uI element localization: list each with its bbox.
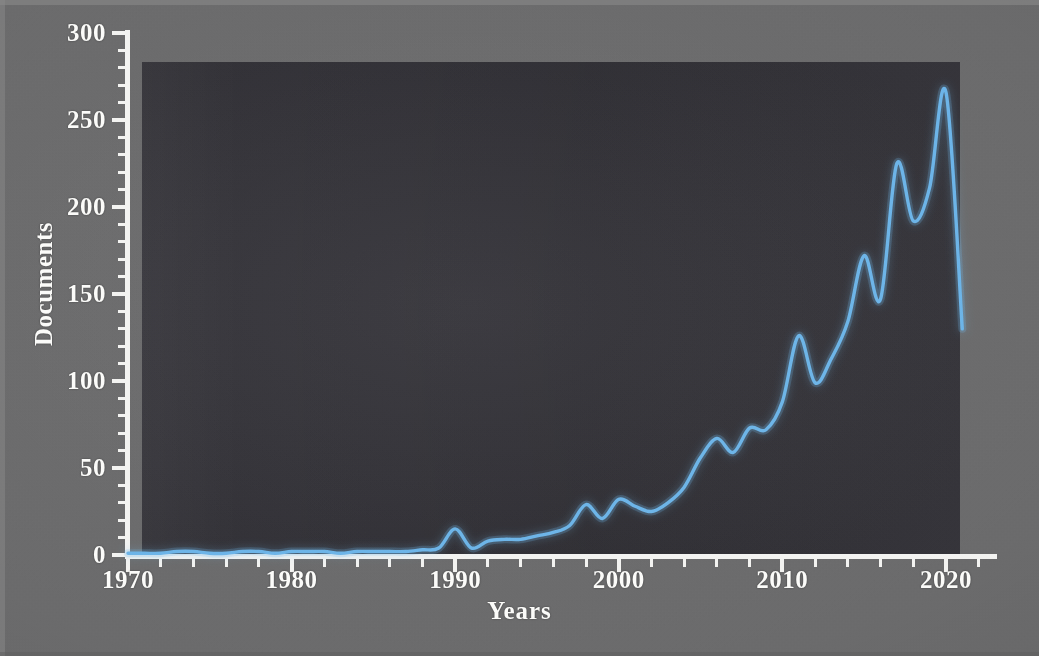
x-axis-tick-label: 2020 bbox=[886, 566, 1006, 594]
y-axis-minor-tick bbox=[118, 188, 130, 191]
y-axis-minor-tick bbox=[118, 66, 130, 69]
y-axis-major-tick bbox=[112, 292, 130, 296]
y-axis-minor-tick bbox=[118, 449, 130, 452]
y-axis-tick-label: 250 bbox=[40, 107, 106, 132]
y-axis-tick-label: 0 bbox=[40, 542, 106, 567]
x-axis-minor-tick bbox=[356, 556, 359, 567]
plot-area-background bbox=[142, 62, 960, 557]
y-axis-minor-tick bbox=[118, 414, 130, 417]
x-axis-minor-tick bbox=[683, 556, 686, 567]
y-axis-minor-tick bbox=[118, 49, 130, 52]
y-axis-minor-tick bbox=[118, 153, 130, 156]
x-axis-tick-label: 1980 bbox=[232, 566, 352, 594]
x-axis-minor-tick bbox=[715, 556, 718, 567]
y-axis-major-tick bbox=[112, 466, 130, 470]
x-axis-minor-tick bbox=[846, 556, 849, 567]
x-axis-minor-tick bbox=[519, 556, 522, 567]
y-axis-minor-tick bbox=[118, 223, 130, 226]
x-axis-tick-label: 1970 bbox=[68, 566, 188, 594]
y-axis-minor-tick bbox=[118, 310, 130, 313]
y-axis-minor-tick bbox=[118, 519, 130, 522]
y-axis-major-tick bbox=[112, 205, 130, 209]
y-axis-minor-tick bbox=[118, 84, 130, 87]
x-axis-line bbox=[125, 554, 997, 559]
y-axis-minor-tick bbox=[118, 484, 130, 487]
y-axis-minor-tick bbox=[118, 275, 130, 278]
y-axis-minor-tick bbox=[118, 397, 130, 400]
y-axis-minor-tick bbox=[118, 501, 130, 504]
y-axis-minor-tick bbox=[118, 258, 130, 261]
x-axis-minor-tick bbox=[192, 556, 195, 567]
y-axis-minor-tick bbox=[118, 327, 130, 330]
x-axis-tick-label: 2000 bbox=[559, 566, 679, 594]
y-axis-minor-tick bbox=[118, 171, 130, 174]
y-axis-minor-tick bbox=[118, 101, 130, 104]
y-axis-minor-tick bbox=[118, 240, 130, 243]
x-axis-minor-tick bbox=[225, 556, 228, 567]
scan-edge-bottom bbox=[0, 652, 1039, 656]
y-axis-minor-tick bbox=[118, 362, 130, 365]
x-axis-minor-tick bbox=[552, 556, 555, 567]
y-axis-tick-label: 300 bbox=[40, 20, 106, 45]
y-axis-major-tick bbox=[112, 379, 130, 383]
x-axis-minor-tick bbox=[879, 556, 882, 567]
y-axis-minor-tick bbox=[118, 136, 130, 139]
y-axis-minor-tick bbox=[118, 536, 130, 539]
chart-figure: 050100150200250300 197019801990200020102… bbox=[0, 0, 1039, 656]
y-axis-major-tick bbox=[112, 31, 130, 35]
x-axis-title: Years bbox=[0, 597, 1039, 625]
x-axis-tick-label: 1990 bbox=[395, 566, 515, 594]
y-axis-minor-tick bbox=[118, 432, 130, 435]
y-axis-tick-label: 50 bbox=[40, 455, 106, 480]
x-axis-minor-tick bbox=[388, 556, 391, 567]
scan-edge-left bbox=[0, 0, 5, 656]
scan-edge-top bbox=[0, 0, 1039, 5]
y-axis-minor-tick bbox=[118, 345, 130, 348]
y-axis-major-tick bbox=[112, 118, 130, 122]
y-axis-title: Documents bbox=[30, 194, 58, 374]
x-axis-tick-label: 2010 bbox=[722, 566, 842, 594]
